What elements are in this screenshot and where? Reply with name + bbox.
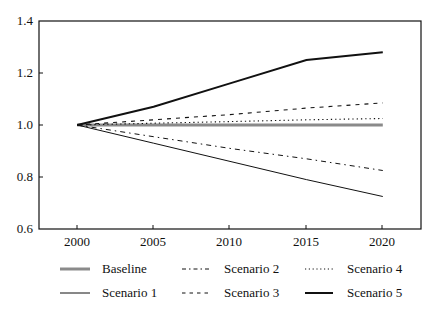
chart-svg: 1.4 1.2 1.0 0.8 0.6 2000 2005 2010 2015 …: [0, 0, 435, 316]
legend-label: Baseline: [102, 261, 147, 276]
legend-item-scenario-3: Scenario 3: [182, 285, 279, 300]
legend-item-scenario-4: Scenario 4: [305, 261, 403, 276]
x-tick-label: 2005: [140, 234, 166, 249]
legend: Baseline Scenario 1 Scenario 2 Scenario …: [60, 261, 403, 300]
x-tick-label: 2010: [216, 234, 242, 249]
x-tick-label: 2015: [293, 234, 319, 249]
legend-label: Scenario 4: [347, 261, 403, 276]
y-tick-label: 0.6: [17, 221, 34, 236]
series-line-scenario-2: [77, 125, 383, 171]
line-chart: 1.4 1.2 1.0 0.8 0.6 2000 2005 2010 2015 …: [0, 0, 435, 316]
series-layer: [77, 52, 383, 196]
y-tick-label: 0.8: [17, 169, 33, 184]
legend-label: Scenario 3: [224, 285, 279, 300]
legend-label: Scenario 2: [224, 261, 279, 276]
y-tick-label: 1.4: [17, 13, 34, 28]
legend-item-scenario-2: Scenario 2: [182, 261, 279, 276]
legend-label: Scenario 5: [347, 285, 402, 300]
x-tick-label: 2000: [64, 234, 90, 249]
y-tick-label: 1.0: [17, 117, 33, 132]
x-tick-label: 2020: [369, 234, 395, 249]
legend-item-scenario-5: Scenario 5: [305, 285, 402, 300]
legend-item-baseline: Baseline: [60, 261, 147, 276]
legend-label: Scenario 1: [102, 285, 157, 300]
legend-item-scenario-1: Scenario 1: [60, 285, 157, 300]
series-line-scenario-1: [77, 125, 383, 197]
y-tick-label: 1.2: [17, 65, 33, 80]
